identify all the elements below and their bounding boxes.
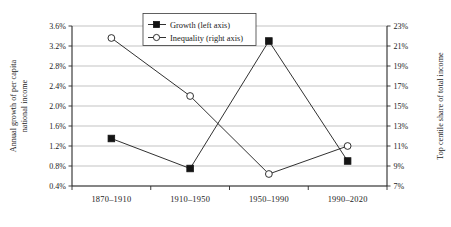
left-tick-label: 0.8% xyxy=(49,162,66,171)
right-tick-label: 15% xyxy=(394,102,409,111)
left-tick-label: 2.0% xyxy=(49,102,66,111)
right-axis-title: Top centile share of total income xyxy=(436,52,445,160)
x-category-label: 1950–1990 xyxy=(249,195,289,204)
left-tick-label: 2.4% xyxy=(49,82,66,91)
data-point-inequality xyxy=(265,171,272,178)
right-tick-label: 21% xyxy=(394,42,409,51)
left-axis-title-line1: Annual growth of per capita xyxy=(9,59,18,152)
legend-marker-inequality xyxy=(153,34,159,40)
data-point-growth xyxy=(266,38,273,45)
left-tick-label: 2.8% xyxy=(49,62,66,71)
legend-marker-growth xyxy=(154,22,160,28)
right-tick-label: 13% xyxy=(394,122,409,131)
legend: Growth (left axis) Inequality (right axi… xyxy=(143,14,256,46)
x-category-label: 1870–1910 xyxy=(91,195,131,204)
left-tick-label: 3.6% xyxy=(49,22,66,31)
right-tick-label: 19% xyxy=(394,62,409,71)
data-point-growth xyxy=(344,158,351,165)
data-point-inequality xyxy=(108,35,115,42)
data-point-growth xyxy=(108,135,115,142)
left-tick-label: 1.6% xyxy=(49,122,66,131)
legend-label-inequality: Inequality (right axis) xyxy=(170,34,243,43)
line-chart: 3.6%3.2%2.8%2.4%2.0%1.6%1.2%0.8%0.4% 23%… xyxy=(0,0,451,227)
right-tick-label: 17% xyxy=(394,82,409,91)
left-tick-label: 3.2% xyxy=(49,42,66,51)
legend-label-growth: Growth (left axis) xyxy=(170,21,230,30)
left-tick-label: 1.2% xyxy=(49,142,66,151)
left-axis-title-line2: national income xyxy=(20,79,29,132)
x-category-label: 1910–1950 xyxy=(170,195,210,204)
right-tick-label: 9% xyxy=(394,162,405,171)
data-point-inequality xyxy=(344,143,351,150)
left-axis-tick-labels: 3.6%3.2%2.8%2.4%2.0%1.6%1.2%0.8%0.4% xyxy=(49,22,66,191)
data-point-growth xyxy=(187,165,194,172)
right-tick-label: 11% xyxy=(394,142,409,151)
data-point-inequality xyxy=(187,93,194,100)
x-category-label: 1990–2020 xyxy=(328,195,368,204)
chart-container: 3.6%3.2%2.8%2.4%2.0%1.6%1.2%0.8%0.4% 23%… xyxy=(0,0,451,227)
right-tick-label: 23% xyxy=(394,22,409,31)
left-tick-label: 0.4% xyxy=(49,182,66,191)
right-tick-label: 7% xyxy=(394,182,405,191)
